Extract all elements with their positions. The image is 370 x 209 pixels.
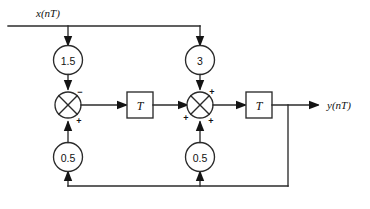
input-signal-label: x(nT)	[35, 7, 60, 20]
wire-gain-left-to-adder-left	[64, 75, 72, 91]
adder-right-sign-top: +	[209, 87, 214, 97]
adder-left-sign-top: −	[77, 87, 82, 97]
delay-block-right[interactable]: T	[246, 92, 272, 118]
adder-right-sign-left: +	[183, 113, 188, 123]
wire-output	[272, 101, 319, 109]
wire-adder-right-to-delay-right	[213, 101, 246, 109]
adder-left-sign-bottom: +	[76, 116, 81, 126]
wire-input-to-gain-right	[196, 26, 204, 46]
gain-1-5-label: 1.5	[61, 55, 76, 67]
gain-feedback-right-label: 0.5	[193, 152, 208, 164]
gain-block-feedback-right[interactable]: 0.5	[186, 143, 215, 172]
wire-gain-feedback-right-to-adder-right	[196, 121, 204, 143]
wire-feedback-to-gain-right	[196, 171, 204, 186]
signal-flow-diagram: 1.5 3 − +	[0, 0, 370, 209]
gain-block-3[interactable]: 3	[186, 46, 215, 75]
gain-3-label: 3	[197, 55, 203, 67]
gain-feedback-left-label: 0.5	[61, 152, 76, 164]
wire-adder-left-to-delay-left	[81, 101, 127, 109]
diagram-canvas: 1.5 3 − +	[0, 0, 370, 209]
wire-feedback-to-gain-left	[64, 171, 72, 186]
wire-input-to-gain-left	[64, 26, 72, 46]
wire-gain-feedback-left-to-adder-left	[64, 121, 72, 143]
delay-block-left[interactable]: T	[127, 92, 153, 118]
gain-block-1-5[interactable]: 1.5	[54, 46, 83, 75]
wire-delay-left-to-adder-right	[153, 101, 188, 109]
adder-right-sign-bottom: +	[208, 116, 213, 126]
output-signal-label: y(nT)	[326, 99, 351, 112]
wire-gain-right-to-adder-right	[196, 75, 204, 91]
gain-block-feedback-left[interactable]: 0.5	[54, 143, 83, 172]
